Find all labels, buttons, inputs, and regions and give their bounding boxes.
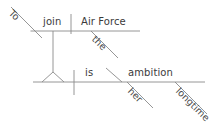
sentence-diagram: To join Air Force the is ambition her lo… [0,0,217,135]
tripod-left-leg [42,72,53,82]
word-is: is [85,68,93,78]
word-air-force: Air Force [81,17,126,27]
predicate-nominative-slant [106,68,122,82]
word-join: join [43,17,61,27]
tripod-right-leg [53,72,64,82]
word-ambition: ambition [128,68,173,78]
